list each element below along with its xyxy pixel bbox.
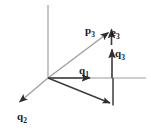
vector-projection-line	[48, 78, 110, 103]
vector-label-q2-sub: 2	[23, 116, 27, 125]
vector-label-q2: q2	[17, 107, 27, 123]
vector-label-q3-sub: 3	[121, 53, 125, 62]
vector-q2-line	[20, 78, 49, 102]
vector-label-e3: e3	[111, 23, 120, 39]
vector-label-p3-sub: 3	[91, 30, 95, 39]
vector-label-q1-sub: 1	[85, 70, 89, 79]
vector-diagram-figure: p3 e3 q3 q1 q2	[0, 0, 151, 132]
vector-label-p3: p3	[85, 21, 95, 37]
vector-label-e3-sub: 3	[116, 32, 120, 41]
vector-label-q1: q1	[79, 61, 89, 77]
vectors-group	[20, 30, 114, 106]
vector-label-q3: q3	[115, 44, 125, 60]
